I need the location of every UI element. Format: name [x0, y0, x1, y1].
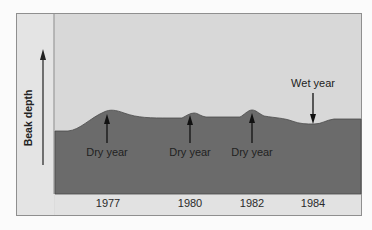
y-axis-label: Beak depth: [22, 90, 34, 147]
chart-plot: [0, 0, 372, 230]
annotation-dry-year-1977: Dry year: [86, 146, 128, 158]
annotation-wet-year-1984: Wet year: [291, 77, 335, 89]
annotation-dry-year-1982: Dry year: [231, 146, 273, 158]
x-tick-1980: 1980: [178, 197, 202, 209]
x-tick-1982: 1982: [240, 197, 264, 209]
x-tick-1984: 1984: [301, 197, 325, 209]
annotation-dry-year-1980: Dry year: [169, 146, 211, 158]
x-tick-1977: 1977: [96, 197, 120, 209]
